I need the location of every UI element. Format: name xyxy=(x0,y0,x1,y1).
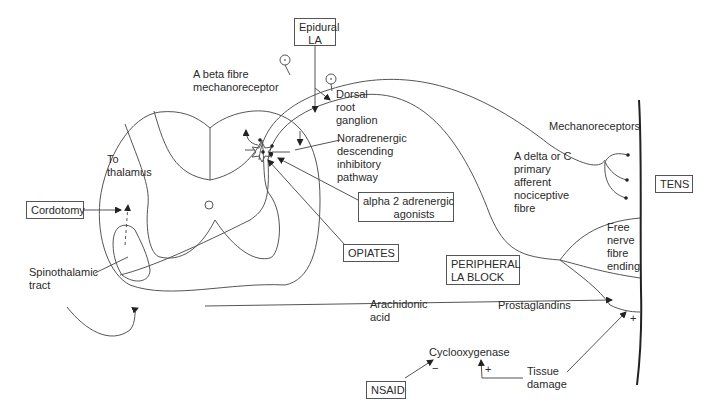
plus-sign-skin: + xyxy=(630,312,636,325)
alpha2-agonists-box: alpha 2 adrenergic agonists xyxy=(358,192,454,222)
a-beta-fibre-label: A beta fibre mechanoreceptor xyxy=(193,68,279,94)
spinothalamic-region xyxy=(113,225,150,281)
to-thalamus-label: To thalamus xyxy=(107,153,152,179)
opiates-box: OPIATES xyxy=(343,244,399,262)
dorsal-root-ganglion-label: Dorsal root ganglion xyxy=(336,88,378,127)
a-delta-c-label: A delta or C primary afferent nociceptiv… xyxy=(514,150,571,215)
free-nerve-ending-label: Free nerve fibre ending xyxy=(607,221,640,273)
peripheral-la-block-box: PERIPHERAL LA BLOCK xyxy=(446,255,520,285)
prostaglandins-label: Prostaglandins xyxy=(498,299,571,312)
mechanoreceptors-label: Mechanoreceptors xyxy=(549,120,640,133)
epidural-la-box: Epidural LA xyxy=(294,18,336,46)
plus-sign-tissue: + xyxy=(485,363,491,376)
tens-box: TENS xyxy=(655,175,693,193)
arachidonic-acid-label: Arachidonic acid xyxy=(370,298,427,324)
spinothalamic-label: Spinothalamic tract xyxy=(29,266,98,292)
noradrenergic-label: Noradrenergic descending inhibitory path… xyxy=(337,132,407,184)
nsaid-box: NSAID xyxy=(366,381,406,399)
cyclooxygenase-label: Cyclooxygenase xyxy=(429,346,510,359)
cordotomy-box: Cordotomy xyxy=(26,201,84,219)
tissue-damage-label: Tissue damage xyxy=(527,365,567,391)
grey-matter xyxy=(125,111,279,259)
minus-sign: − xyxy=(432,362,438,375)
